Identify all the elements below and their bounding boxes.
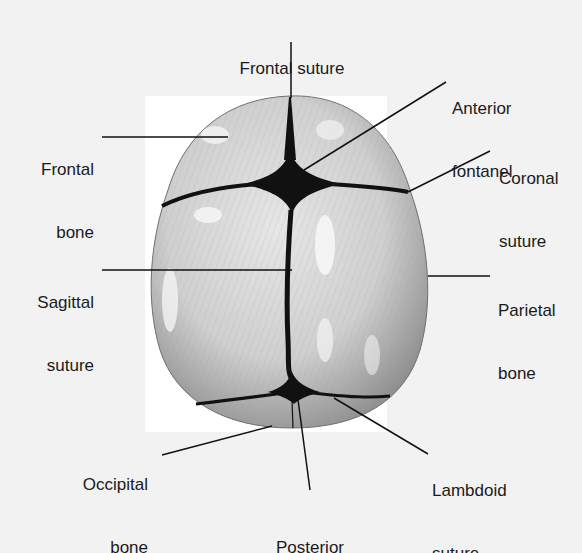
label-frontal-suture: Frontal suture <box>228 16 356 100</box>
label-posterior-fontanel: Posterior fontanel <box>254 495 366 553</box>
label-sagittal-suture: Sagittal suture <box>8 250 94 397</box>
label-lambdoid-suture: Lambdoid suture <box>432 438 507 553</box>
label-frontal-bone: Frontal bone <box>10 117 94 264</box>
label-coronal-suture: Coronal suture <box>499 126 559 273</box>
label-occipital-bone: Occipital bone <box>50 432 148 553</box>
label-parietal-bone: Parietal bone <box>498 258 556 405</box>
